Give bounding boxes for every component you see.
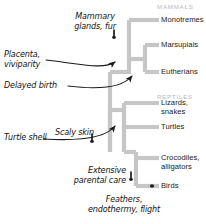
trait-label-extensive-parental-care: Extensive parental care xyxy=(56,166,126,185)
taxon-label-lizards-snakes: Lizards, snakes xyxy=(161,99,188,116)
taxon-label-crocodiles-alligators: Crocodiles, alligators xyxy=(161,154,200,171)
trait-label-scaly-skin: Scaly skin xyxy=(55,128,107,138)
marker-birds-node xyxy=(150,184,154,188)
taxon-label-turtles: Turtles xyxy=(161,123,184,132)
taxon-label-eutherians: Eutherians xyxy=(161,68,198,77)
trait-label-placenta-viviparity: Placenta, viviparity xyxy=(4,50,64,69)
marker-scaly-node xyxy=(90,140,94,143)
trait-label-delayed-birth: Delayed birth xyxy=(4,81,74,91)
taxon-label-monotremes: Monotremes xyxy=(161,16,204,25)
group-label-mammals: MAMMALS xyxy=(157,3,194,10)
marker-parental-node xyxy=(129,178,133,181)
arrow-delayed-birth xyxy=(68,76,132,88)
trait-label-mammary-glands-fur: Mammary glands, fur xyxy=(62,12,128,31)
trait-label-turtle-shell: Turtle shell xyxy=(4,133,44,143)
trait-label-feathers-endothermy-flight: Feathers, endothermy, flight xyxy=(50,195,198,214)
cladogram-figure: MAMMALS REPTILES Monotremes Marsupials E… xyxy=(0,0,206,224)
taxon-label-birds: Birds xyxy=(161,182,179,191)
marker-mammary-node xyxy=(112,36,116,39)
taxon-label-marsupials: Marsupials xyxy=(161,41,198,50)
